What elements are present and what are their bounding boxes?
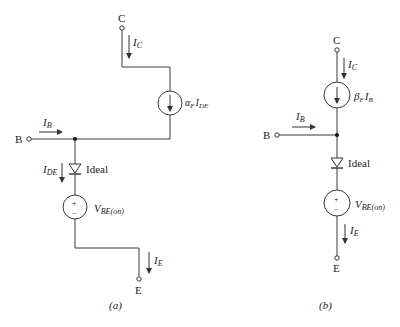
bjt-equivalent-circuits: C IC αFIDE B IB Ideal IDE + − VBE(on) xyxy=(0,0,400,327)
emitter-terminal-a xyxy=(137,277,141,281)
vbe-label-b: VBE(on) xyxy=(355,198,385,212)
base-terminal-a xyxy=(27,137,31,141)
current-source-label-a: αFIDE xyxy=(185,97,209,110)
circuit-b: C IC βFIB B IB Ideal + − VBE(on) IE E (b… xyxy=(263,34,385,312)
collector-terminal-b xyxy=(335,48,339,52)
ie-label-a: IE xyxy=(153,254,163,268)
diode-label-b: Ideal xyxy=(348,157,370,169)
diode-b xyxy=(331,158,343,167)
base-terminal-b xyxy=(275,133,279,137)
emitter-label-a: E xyxy=(135,284,142,296)
base-label-b: B xyxy=(263,129,270,141)
vbe-label-a: VBE(on) xyxy=(94,202,124,216)
plus-sign-b: + xyxy=(334,195,339,204)
ic-label-a: IC xyxy=(132,36,143,50)
minus-sign-b: − xyxy=(334,205,339,214)
collector-terminal-a xyxy=(120,26,124,30)
minus-sign-a: − xyxy=(72,209,77,218)
caption-a: (a) xyxy=(109,299,122,312)
emitter-terminal-b xyxy=(335,256,339,260)
collector-label-b: C xyxy=(333,34,340,46)
wire-base-a xyxy=(31,115,170,139)
diode-a xyxy=(69,164,81,173)
base-label-a: B xyxy=(15,133,22,145)
ic-label-b: IC xyxy=(347,58,358,72)
collector-label-a: C xyxy=(118,12,125,24)
ie-label-b: IE xyxy=(349,224,359,238)
emitter-label-b: E xyxy=(333,262,340,274)
diode-label-a: Ideal xyxy=(86,163,108,175)
ib-label-b: IB xyxy=(295,110,305,124)
ib-label-a: IB xyxy=(42,116,52,130)
ide-label-a: IDE xyxy=(42,163,57,177)
current-source-label-b: βFIB xyxy=(353,90,373,104)
node-b xyxy=(335,133,339,137)
plus-sign-a: + xyxy=(72,199,77,208)
caption-b: (b) xyxy=(319,299,332,312)
circuit-a: C IC αFIDE B IB Ideal IDE + − VBE(on) xyxy=(15,12,209,312)
wire-emitter-a xyxy=(75,219,139,276)
